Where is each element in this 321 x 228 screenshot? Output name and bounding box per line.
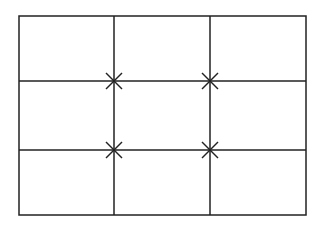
frame-border	[19, 16, 306, 215]
rule-of-thirds-diagram	[0, 0, 321, 228]
